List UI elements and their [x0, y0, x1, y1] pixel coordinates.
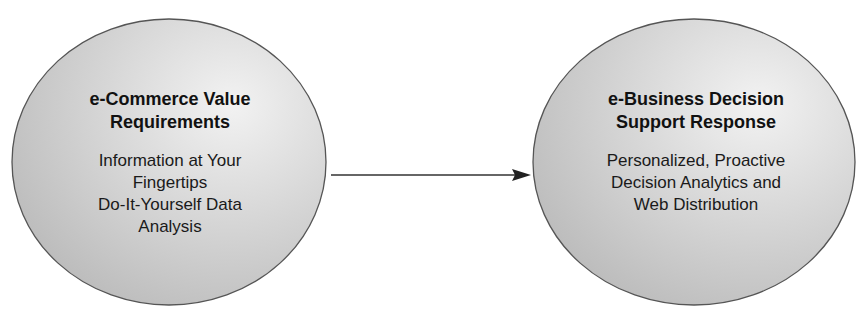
right-node: e-Business Decision Support Response Per… — [566, 88, 826, 216]
body-line: Decision Analytics and — [607, 172, 786, 194]
body-line: Fingertips — [98, 172, 242, 194]
left-node-body: Information at Your Fingertips Do-It-You… — [98, 150, 242, 238]
title-line: Support Response — [608, 111, 784, 134]
title-line: e-Commerce Value — [89, 88, 250, 111]
body-line: Personalized, Proactive — [607, 150, 786, 172]
right-node-title: e-Business Decision Support Response — [608, 88, 784, 134]
body-line: Web Distribution — [607, 194, 786, 216]
body-line: Do-It-Yourself Data — [98, 194, 242, 216]
title-line: Requirements — [89, 111, 250, 134]
body-line: Information at Your — [98, 150, 242, 172]
right-node-body: Personalized, Proactive Decision Analyti… — [607, 150, 786, 216]
body-line: Analysis — [98, 216, 242, 238]
arrow-icon — [331, 169, 531, 181]
left-node-title: e-Commerce Value Requirements — [89, 88, 250, 134]
left-node: e-Commerce Value Requirements Informatio… — [40, 88, 300, 238]
title-line: e-Business Decision — [608, 88, 784, 111]
